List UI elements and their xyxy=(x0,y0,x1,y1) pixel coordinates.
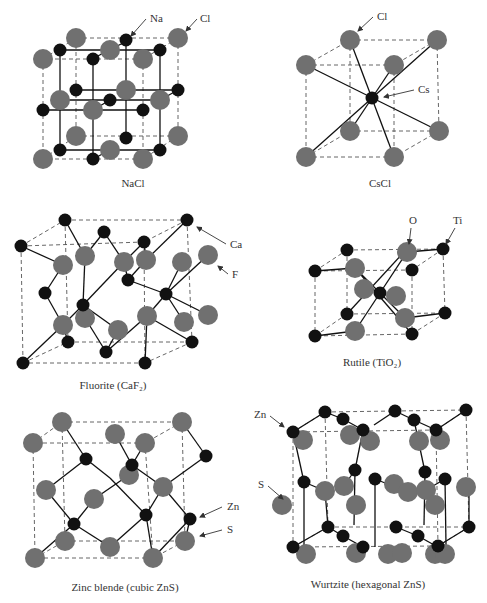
anion-atom xyxy=(84,489,104,509)
cation-atom xyxy=(120,132,133,145)
cation-atom xyxy=(349,464,362,477)
cation-atom xyxy=(59,214,72,227)
cation-atom xyxy=(87,153,100,166)
caption-cscl: CsCl xyxy=(369,177,391,189)
anion-atom xyxy=(174,312,194,332)
structure-fluorite xyxy=(15,214,229,370)
anion-atom xyxy=(397,242,417,262)
anion-atom xyxy=(133,149,153,169)
anion-atom xyxy=(346,495,366,515)
anion-atom xyxy=(53,315,73,335)
anion-atom xyxy=(409,431,429,451)
caption-wurtzite: Wurtzite (hexagonal ZnS) xyxy=(311,578,426,591)
anion-atom xyxy=(340,30,360,50)
label-s: S xyxy=(258,478,264,490)
label-s: S xyxy=(227,523,233,535)
cation-atom xyxy=(77,299,90,312)
anion-atom xyxy=(23,433,43,453)
cation-atom xyxy=(408,414,421,427)
anion-atom xyxy=(354,279,374,299)
anion-atom xyxy=(133,49,153,69)
cell-edge xyxy=(62,422,65,541)
anion-atom xyxy=(135,433,155,453)
anion-atom xyxy=(392,543,412,563)
pointer-arrow-icon xyxy=(358,17,373,31)
pointer-arrow-icon xyxy=(268,486,283,499)
cell-edge xyxy=(145,342,192,363)
label-ca: Ca xyxy=(230,238,242,250)
cation-atom xyxy=(460,404,473,417)
cation-atom xyxy=(406,328,419,341)
cation-atom xyxy=(319,406,332,419)
cation-atom xyxy=(138,236,151,249)
anion-atom xyxy=(384,55,404,75)
label-na: Na xyxy=(150,12,163,24)
anion-atom xyxy=(52,412,72,432)
cation-atom xyxy=(357,541,370,554)
cell-edge xyxy=(23,342,68,363)
anion-atom xyxy=(456,477,476,497)
cation-atom xyxy=(463,521,476,534)
anion-atom xyxy=(36,480,56,500)
anion-atom xyxy=(108,320,128,340)
cation-atom xyxy=(341,308,354,321)
anion-atom xyxy=(153,477,173,497)
caption-fluorite: Fluorite (CaF₂) xyxy=(79,379,146,392)
label-o: O xyxy=(409,214,417,226)
anion-atom xyxy=(83,100,103,120)
crystal-structures-figure: NaCl CsCl Fluorite (CaF₂) Rutile (TiO₂) … xyxy=(0,0,487,603)
anion-atom xyxy=(137,306,157,326)
anion-atom xyxy=(345,258,365,278)
anion-atom xyxy=(296,147,316,167)
cell-edge xyxy=(182,422,185,541)
cation-atom xyxy=(419,466,432,479)
anion-atom xyxy=(105,424,125,444)
anion-atom xyxy=(33,149,53,169)
pointer-arrow-icon xyxy=(200,507,222,517)
anion-atom xyxy=(75,246,95,266)
cation-atom xyxy=(432,540,445,553)
anion-atom xyxy=(168,28,188,48)
anion-atom xyxy=(143,548,163,568)
label-zn: Zn xyxy=(254,408,267,420)
anion-atom xyxy=(100,537,120,557)
anion-atom xyxy=(334,476,354,496)
anion-atom xyxy=(66,126,86,146)
pointer-arrow-icon xyxy=(131,19,146,36)
cation-atom xyxy=(80,453,93,466)
cation-atom xyxy=(369,473,382,486)
pointer-arrow-icon xyxy=(446,228,455,244)
anion-atom xyxy=(384,147,404,167)
pointer-arrow-icon xyxy=(218,266,228,274)
cation-atom xyxy=(87,53,100,66)
cation-atom xyxy=(341,244,354,257)
anion-atom xyxy=(427,30,447,50)
cation-atom xyxy=(430,424,443,437)
anion-atom xyxy=(345,321,365,341)
cell-edge xyxy=(21,246,23,363)
anion-atom xyxy=(53,255,73,275)
anion-atom xyxy=(168,126,188,146)
label-ti: Ti xyxy=(453,214,462,226)
anion-atom xyxy=(315,481,335,501)
cation-atom xyxy=(37,104,50,117)
cell-edge xyxy=(437,40,439,131)
cation-atom xyxy=(39,287,52,300)
cation-atom xyxy=(172,84,185,97)
anion-atom xyxy=(198,305,218,325)
cation-atom xyxy=(120,34,133,47)
cation-atom xyxy=(322,521,335,534)
cation-atom xyxy=(139,357,152,370)
cation-atom xyxy=(54,44,67,57)
cation-atom xyxy=(68,518,81,531)
cation-atom xyxy=(137,104,150,117)
cation-atom xyxy=(160,288,173,301)
cell-edge xyxy=(443,249,445,313)
structure-rutile xyxy=(309,228,456,343)
cation-atom xyxy=(154,144,167,157)
cell-edge xyxy=(33,443,35,558)
pointer-arrow-icon xyxy=(197,227,226,244)
label-zn: Zn xyxy=(227,500,240,512)
cation-atom xyxy=(439,473,452,486)
anion-atom xyxy=(296,55,316,75)
